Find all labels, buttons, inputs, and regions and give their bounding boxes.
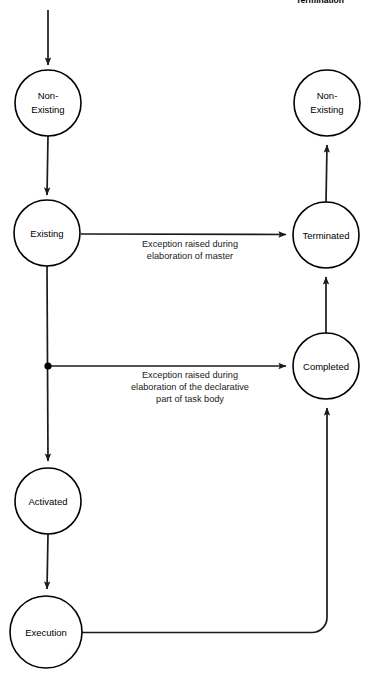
state-label-line1: Activated — [28, 496, 67, 507]
state-node-non-existing-left[interactable]: Non- Existing — [15, 70, 81, 136]
state-node-completed[interactable]: Completed — [293, 333, 359, 399]
diagram-title-text: Termination — [296, 0, 344, 5]
edge-label-line: part of task body — [156, 394, 224, 404]
state-label-line2: Existing — [31, 104, 64, 115]
diagram-canvas: Non- Existing Existing Activated Executi… — [0, 0, 371, 676]
state-label-line1: Execution — [25, 627, 67, 638]
edge-label-line: Exception raised during — [142, 239, 238, 249]
state-node-execution[interactable]: Execution — [10, 596, 82, 668]
edge-activated-to-execution — [47, 534, 48, 589]
state-label-line1: Non- — [317, 90, 338, 101]
state-label-line1: Terminated — [303, 230, 350, 241]
state-node-existing[interactable]: Existing — [14, 200, 80, 266]
state-label-line1: Non- — [38, 90, 59, 101]
task-state-diagram: Non- Existing Existing Activated Executi… — [0, 0, 371, 676]
junction-dot — [44, 362, 51, 369]
state-label-line1: Completed — [303, 361, 349, 372]
edge-label-line: elaboration of the declarative — [131, 382, 249, 392]
edge-label-line: elaboration of master — [147, 251, 233, 261]
edge-non-existing-to-existing — [47, 136, 48, 195]
state-label-line2: Existing — [310, 104, 343, 115]
edge-label-exception-master: Exception raised during elaboration of m… — [142, 239, 238, 261]
state-label-line1: Existing — [30, 228, 63, 239]
state-node-activated[interactable]: Activated — [15, 468, 81, 534]
edge-label-line: Exception raised during — [142, 370, 238, 380]
edge-existing-to-terminated — [81, 234, 286, 235]
state-node-non-existing-right[interactable]: Non- Existing — [294, 70, 360, 136]
edge-label-exception-declarative: Exception raised during elaboration of t… — [131, 370, 249, 404]
edge-execution-to-completed — [82, 408, 327, 633]
edge-terminated-to-non-existing — [326, 145, 327, 202]
diagram-title: Termination — [296, 0, 344, 5]
state-node-terminated[interactable]: Terminated — [293, 202, 359, 268]
